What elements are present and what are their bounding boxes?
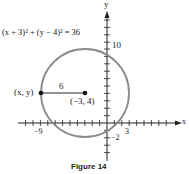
radius-label: 6: [59, 81, 64, 91]
y-axis-label: y: [104, 0, 109, 9]
tick-label-y-10: 10: [112, 40, 121, 50]
y-axis: [104, 11, 110, 161]
point-xy-dot: [39, 91, 44, 96]
center-dot: [83, 91, 88, 96]
tick-label-y-neg2: −2: [111, 133, 120, 142]
x-axis: [18, 120, 182, 126]
point-label: (x, y): [14, 87, 34, 97]
center-label: (−3, 4): [70, 96, 95, 106]
y-axis-arrow-icon: [105, 11, 110, 18]
tick-label-x-3: 3: [125, 127, 129, 136]
tick-label-x-neg9: −9: [34, 127, 43, 136]
circle-equation: (x + 3)² + (y − 4)² = 36: [2, 27, 80, 37]
x-axis-label: x: [182, 117, 186, 126]
figure-caption: Figure 14: [71, 162, 107, 171]
x-axis-arrow-icon: [175, 121, 182, 126]
